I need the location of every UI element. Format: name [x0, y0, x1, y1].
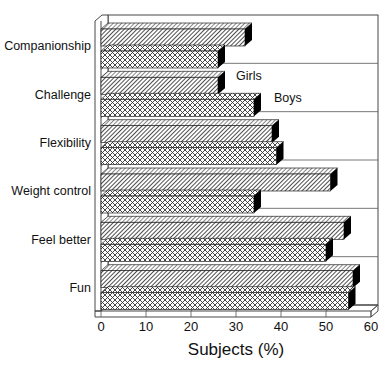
- bar-boys-flexibility: [101, 142, 284, 165]
- category-label: Fun: [69, 281, 91, 295]
- x-tick-label: 40: [274, 319, 288, 334]
- category-label: Flexibility: [40, 136, 92, 150]
- bar-boys-companionship: [101, 45, 225, 68]
- bar-girls-flexibility: [101, 120, 279, 143]
- bar-girls-fun: [101, 265, 360, 288]
- bar-girls-challenge: [101, 71, 225, 94]
- legend-boys-label: Boys: [274, 91, 302, 105]
- x-axis-title: Subjects (%): [188, 340, 284, 359]
- legend-girls-label: Girls: [236, 69, 262, 83]
- bar-boys-challenge: [101, 93, 261, 116]
- x-tick-label: 50: [319, 319, 333, 334]
- x-axis-ticks: 0102030405060: [97, 319, 378, 334]
- x-tick-label: 30: [229, 319, 243, 334]
- x-tick-label: 60: [364, 319, 378, 334]
- category-label: Companionship: [4, 39, 91, 53]
- bar-chart: CompanionshipChallengeFlexibilityWeight …: [0, 0, 391, 368]
- x-tick-label: 0: [97, 319, 104, 334]
- category-label: Challenge: [35, 88, 91, 102]
- category-label: Weight control: [11, 184, 91, 198]
- bar-boys-weight-control: [101, 190, 261, 213]
- category-labels: CompanionshipChallengeFlexibilityWeight …: [4, 39, 92, 295]
- bar-boys-fun: [101, 287, 356, 310]
- category-label: Feel better: [31, 233, 91, 247]
- bar-girls-companionship: [101, 23, 252, 46]
- bar-girls-weight-control: [101, 168, 338, 191]
- bar-boys-feel-better: [101, 238, 333, 261]
- x-tick-label: 20: [184, 319, 198, 334]
- bar-girls-feel-better: [101, 216, 351, 239]
- x-tick-label: 10: [139, 319, 153, 334]
